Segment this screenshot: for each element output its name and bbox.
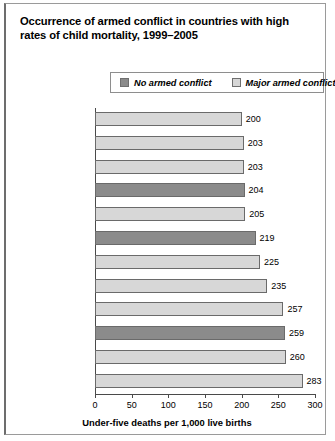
bar[interactable] (95, 136, 244, 150)
x-axis-tick (95, 394, 96, 398)
x-axis-tick (315, 394, 316, 398)
bar[interactable] (95, 183, 245, 197)
bar-chart-plot: Chad200Rwanda203Guinea-Bissau203Equatori… (6, 4, 328, 436)
bar[interactable] (95, 350, 286, 364)
bar-value-label: 203 (248, 136, 263, 150)
bar[interactable] (95, 279, 267, 293)
bar[interactable] (95, 374, 303, 388)
bar[interactable] (95, 231, 256, 245)
bar-value-label: 225 (264, 255, 279, 269)
bar-value-label: 235 (271, 279, 286, 293)
x-axis-tick-label: 250 (258, 400, 298, 410)
x-axis-tick-label: 50 (112, 400, 152, 410)
x-axis-tick (132, 394, 133, 398)
bar-value-label: 283 (307, 374, 322, 388)
bar[interactable] (95, 207, 245, 221)
bar-value-label: 200 (246, 112, 261, 126)
x-axis-tick-label: 150 (185, 400, 225, 410)
bar[interactable] (95, 302, 283, 316)
bar-value-label: 219 (260, 231, 275, 245)
x-axis-tick (168, 394, 169, 398)
bar-value-label: 205 (249, 207, 264, 221)
x-axis-tick (205, 394, 206, 398)
x-axis-tick-label: 100 (148, 400, 188, 410)
x-axis-tick-label: 300 (295, 400, 335, 410)
x-axis-tick-label: 200 (222, 400, 262, 410)
x-axis-tick-label: 0 (75, 400, 115, 410)
bar[interactable] (95, 255, 260, 269)
bar[interactable] (95, 112, 242, 126)
bar-value-label: 259 (289, 326, 304, 340)
x-axis-tick (242, 394, 243, 398)
bar-value-label: 257 (287, 302, 302, 316)
bar-value-label: 204 (249, 183, 264, 197)
bar[interactable] (95, 326, 285, 340)
x-axis-tick (278, 394, 279, 398)
chart-frame: Occurrence of armed conflict in countrie… (4, 3, 326, 435)
bar[interactable] (95, 160, 244, 174)
x-axis-label: Under-five deaths per 1,000 live births (6, 417, 328, 428)
bar-value-label: 260 (290, 350, 305, 364)
bar-value-label: 203 (248, 160, 263, 174)
